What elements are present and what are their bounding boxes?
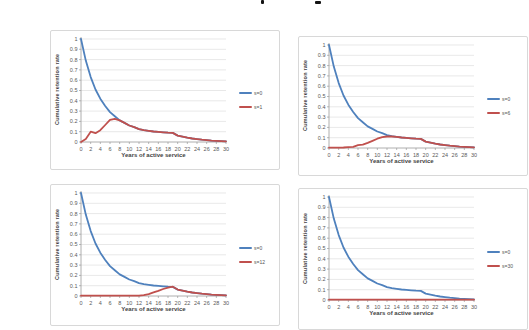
svg-text:20: 20 [423, 152, 429, 158]
legend: s=0 s=1 [239, 90, 262, 110]
legend-item: s=6 [487, 110, 510, 116]
svg-text:0.7: 0.7 [318, 225, 326, 231]
svg-text:1: 1 [74, 36, 77, 42]
legend-item: s=0 [239, 90, 262, 96]
svg-text:0.5: 0.5 [318, 93, 326, 99]
legend-item: s=0 [487, 249, 513, 255]
svg-text:10: 10 [374, 304, 380, 310]
svg-text:28: 28 [213, 300, 219, 306]
svg-text:0.5: 0.5 [318, 245, 326, 251]
svg-text:8: 8 [118, 146, 121, 152]
svg-text:30: 30 [471, 304, 477, 310]
svg-text:0: 0 [322, 145, 325, 151]
svg-text:12: 12 [384, 304, 390, 310]
svg-text:30: 30 [223, 300, 229, 306]
svg-text:0.4: 0.4 [318, 104, 326, 110]
svg-text:0.1: 0.1 [70, 283, 78, 289]
legend-label: s=0 [502, 249, 510, 255]
legend: s=0 s=6 [487, 96, 510, 116]
svg-text:16: 16 [155, 146, 161, 152]
svg-text:0.5: 0.5 [70, 87, 78, 93]
svg-text:4: 4 [99, 146, 102, 152]
svg-text:26: 26 [452, 152, 458, 158]
svg-text:0.7: 0.7 [70, 67, 78, 73]
cropped-text-fragment [315, 1, 321, 4]
svg-text:14: 14 [146, 146, 152, 152]
svg-text:22: 22 [432, 304, 438, 310]
svg-text:0.2: 0.2 [318, 124, 326, 130]
svg-text:18: 18 [165, 146, 171, 152]
svg-text:0.6: 0.6 [70, 77, 78, 83]
svg-text:10: 10 [374, 152, 380, 158]
svg-text:28: 28 [461, 304, 467, 310]
svg-text:24: 24 [442, 152, 448, 158]
svg-text:28: 28 [461, 152, 467, 158]
svg-text:0: 0 [79, 300, 82, 306]
svg-text:0.9: 0.9 [318, 52, 326, 58]
svg-text:0.6: 0.6 [318, 83, 326, 89]
legend: s=0 s=30 [487, 249, 513, 269]
cropped-text-fragment [261, 0, 264, 4]
legend-label: s=0 [254, 245, 262, 251]
chart-panel-s12: Cumulative retention rate 00.10.20.30.40… [50, 184, 280, 326]
svg-text:14: 14 [394, 152, 400, 158]
legend-label: s=12 [254, 259, 265, 265]
svg-text:0.8: 0.8 [318, 63, 326, 69]
svg-text:0.8: 0.8 [70, 211, 78, 217]
svg-text:0.7: 0.7 [318, 73, 326, 79]
svg-text:0: 0 [79, 146, 82, 152]
svg-text:0.9: 0.9 [70, 46, 78, 52]
legend-item: s=0 [239, 245, 265, 251]
chart-panel-s1: Cumulative retention rate 00.10.20.30.40… [50, 30, 280, 170]
svg-text:0.7: 0.7 [70, 221, 78, 227]
svg-text:18: 18 [165, 300, 171, 306]
svg-text:22: 22 [432, 152, 438, 158]
legend-label: s=6 [502, 110, 510, 116]
series-line-swatch [239, 92, 252, 94]
svg-text:18: 18 [413, 152, 419, 158]
svg-text:0: 0 [74, 293, 77, 299]
svg-text:16: 16 [403, 152, 409, 158]
svg-text:0.1: 0.1 [318, 287, 326, 293]
svg-text:2: 2 [89, 146, 92, 152]
svg-text:26: 26 [452, 304, 458, 310]
svg-text:6: 6 [108, 300, 111, 306]
svg-text:4: 4 [99, 300, 102, 306]
svg-text:0.3: 0.3 [70, 262, 78, 268]
svg-text:10: 10 [126, 300, 132, 306]
svg-text:16: 16 [403, 304, 409, 310]
svg-text:2: 2 [89, 300, 92, 306]
svg-text:14: 14 [146, 300, 152, 306]
svg-text:8: 8 [118, 300, 121, 306]
svg-text:2: 2 [337, 152, 340, 158]
svg-text:0: 0 [322, 297, 325, 303]
svg-text:26: 26 [204, 146, 210, 152]
svg-text:22: 22 [184, 146, 190, 152]
legend-label: s=0 [254, 90, 262, 96]
legend-item: s=30 [487, 263, 513, 269]
svg-text:0.6: 0.6 [318, 235, 326, 241]
svg-text:1: 1 [74, 190, 77, 196]
svg-text:6: 6 [108, 146, 111, 152]
svg-text:4: 4 [347, 152, 350, 158]
svg-text:0.8: 0.8 [70, 57, 78, 63]
svg-text:24: 24 [194, 146, 200, 152]
svg-text:4: 4 [347, 304, 350, 310]
legend-label: s=0 [502, 96, 510, 102]
x-axis-title: Years of active service [329, 310, 474, 316]
svg-text:0.4: 0.4 [70, 98, 78, 104]
svg-text:0.2: 0.2 [318, 276, 326, 282]
svg-text:0.3: 0.3 [318, 266, 326, 272]
svg-text:0: 0 [327, 152, 330, 158]
svg-text:20: 20 [175, 300, 181, 306]
svg-text:10: 10 [126, 146, 132, 152]
svg-text:24: 24 [442, 304, 448, 310]
svg-text:12: 12 [136, 146, 142, 152]
svg-text:0: 0 [74, 139, 77, 145]
svg-text:8: 8 [366, 152, 369, 158]
svg-text:12: 12 [384, 152, 390, 158]
svg-text:12: 12 [136, 300, 142, 306]
svg-text:0.4: 0.4 [318, 256, 326, 262]
x-axis-title: Years of active service [81, 152, 226, 158]
